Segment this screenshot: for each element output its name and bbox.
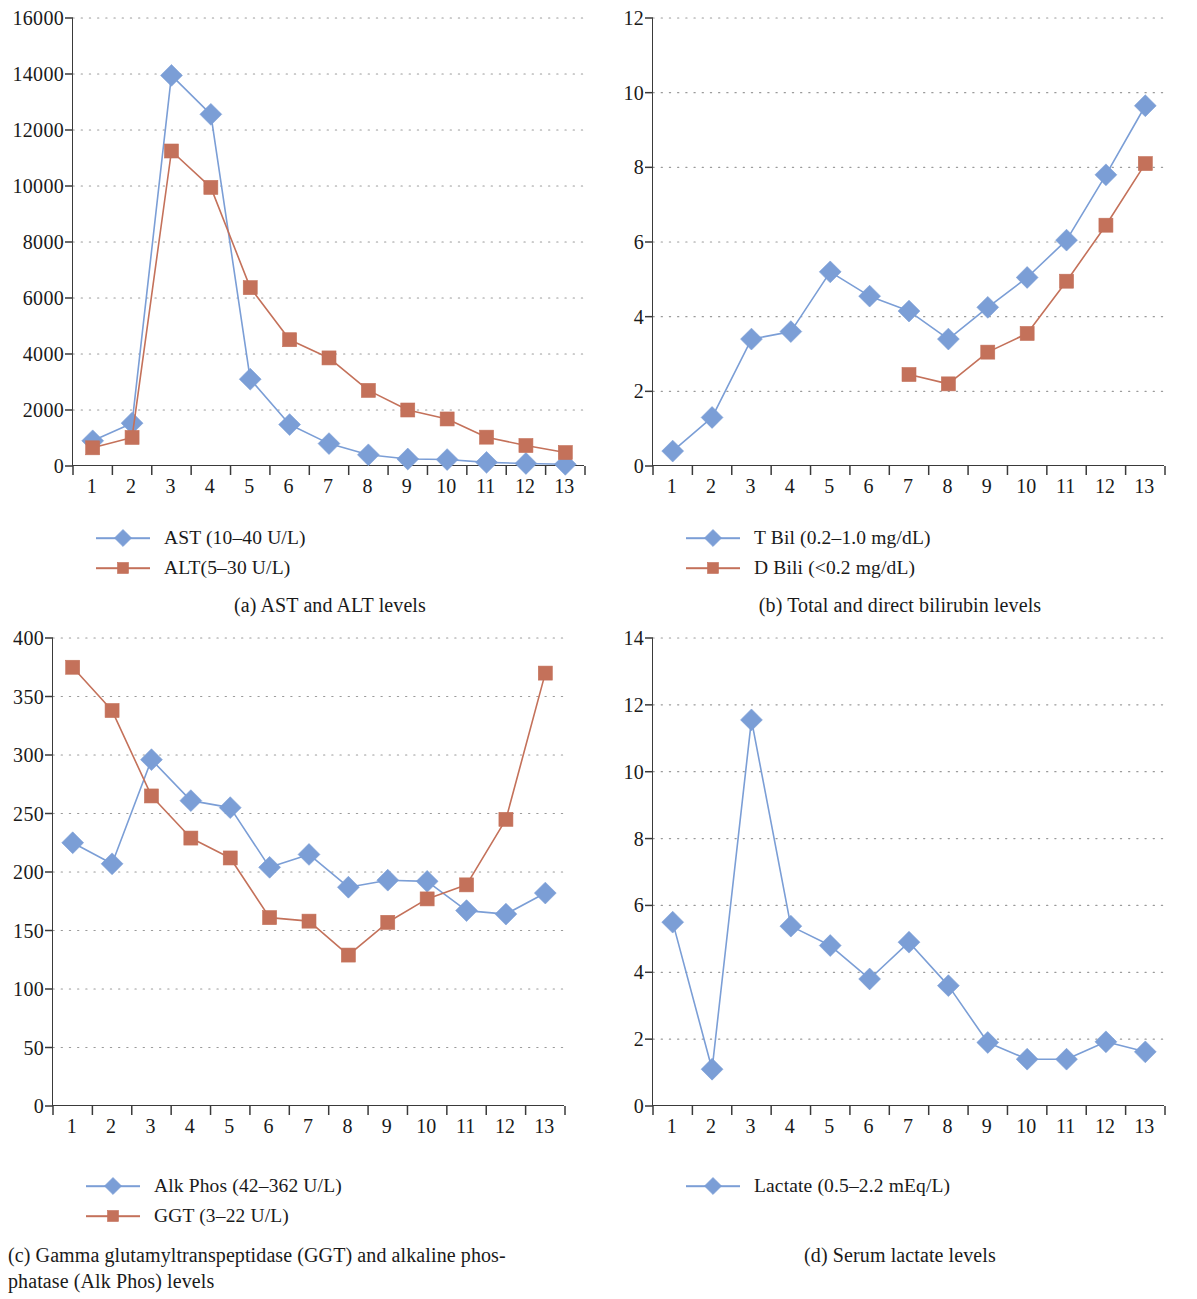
data-point-marker <box>977 296 999 318</box>
data-point-marker <box>662 911 684 933</box>
x-tick-label: 8 <box>942 1116 952 1136</box>
y-tick-label: 14000 <box>13 64 65 84</box>
data-point-marker <box>204 180 218 194</box>
data-point-marker <box>298 844 320 866</box>
y-tick-label: 8 <box>634 829 644 849</box>
data-point-marker <box>259 856 281 878</box>
chart-svg-c <box>53 638 353 788</box>
y-tick-label: 6000 <box>23 288 64 308</box>
x-tick-label: 6 <box>864 476 874 496</box>
legend-diamond-marker-icon <box>86 1178 140 1194</box>
x-tick-label: 7 <box>903 476 913 496</box>
data-point-marker <box>558 446 572 460</box>
data-point-marker <box>495 903 517 925</box>
data-point-marker <box>436 449 458 471</box>
x-tick-label: 12 <box>1095 476 1115 496</box>
x-tick-label: 3 <box>165 476 175 496</box>
caption-c-line2: phatase (Alk Phos) levels <box>8 1270 214 1292</box>
legend-label: AST (10–40 U/L) <box>164 528 306 548</box>
y-tick-label: 150 <box>13 921 44 941</box>
chart-svg-b <box>653 18 953 168</box>
y-tick-label: 10000 <box>13 176 65 196</box>
x-tick-label: 6 <box>264 1116 274 1136</box>
data-point-marker <box>401 403 415 417</box>
data-point-marker <box>937 328 959 350</box>
legend-row: T Bil (0.2–1.0 mg/dL) <box>686 523 931 553</box>
data-point-marker <box>515 453 537 475</box>
y-tick-label: 8000 <box>23 232 64 252</box>
data-point-marker <box>164 144 178 158</box>
panel-b: 024681012 12345678910111213 T Bil (0.2–1… <box>600 0 1197 620</box>
x-tick-label: 2 <box>706 1116 716 1136</box>
x-tick-label: 10 <box>1016 476 1036 496</box>
x-tick-label: 10 <box>416 1116 436 1136</box>
data-point-marker <box>66 660 80 674</box>
y-tick-label: 2 <box>634 1029 644 1049</box>
data-point-marker <box>538 666 552 680</box>
data-point-marker <box>819 261 841 283</box>
legend-row: ALT(5–30 U/L) <box>96 553 306 583</box>
data-point-marker <box>662 440 684 462</box>
legend-label: Lactate (0.5–2.2 mEq/L) <box>754 1176 950 1196</box>
x-tick-label: 9 <box>382 1116 392 1136</box>
plot-area-b <box>652 18 1164 466</box>
x-tick-label: 3 <box>745 476 755 496</box>
y-axis-ticks-d: 02468101214 <box>600 638 644 1106</box>
data-point-marker <box>902 368 916 382</box>
legend-square-marker-icon <box>96 560 150 576</box>
data-point-marker <box>741 709 763 731</box>
data-point-marker <box>898 300 920 322</box>
data-point-marker <box>86 441 100 455</box>
x-tick-label: 3 <box>745 1116 755 1136</box>
data-point-marker <box>219 797 241 819</box>
x-tick-label: 4 <box>785 476 795 496</box>
data-point-marker <box>859 285 881 307</box>
data-point-marker <box>1016 1048 1038 1070</box>
y-tick-label: 12 <box>623 8 644 28</box>
data-point-marker <box>741 328 763 350</box>
x-tick-label: 8 <box>362 476 372 496</box>
data-point-marker <box>1020 326 1034 340</box>
data-point-marker <box>1134 95 1156 117</box>
data-point-marker <box>456 900 478 922</box>
data-point-marker <box>357 444 379 466</box>
x-tick-label: 4 <box>205 476 215 496</box>
x-tick-label: 6 <box>284 476 294 496</box>
x-tick-label: 11 <box>1056 476 1075 496</box>
y-tick-label: 10 <box>623 83 644 103</box>
y-tick-label: 10 <box>623 762 644 782</box>
y-tick-label: 0 <box>634 1096 644 1116</box>
data-point-marker <box>318 433 340 455</box>
x-tick-label: 13 <box>534 1116 554 1136</box>
panel-d: 02468101214 12345678910111213 Lactate (0… <box>600 620 1197 1299</box>
x-tick-label: 8 <box>342 1116 352 1136</box>
x-tick-label: 13 <box>1134 1116 1154 1136</box>
y-tick-label: 2000 <box>23 400 64 420</box>
data-point-marker <box>223 851 237 865</box>
x-tick-label: 5 <box>824 1116 834 1136</box>
y-tick-label: 0 <box>54 456 64 476</box>
data-point-marker <box>499 812 513 826</box>
plot-area-c <box>52 638 564 1106</box>
x-tick-label: 1 <box>87 476 97 496</box>
legend-square-marker-icon <box>686 560 740 576</box>
data-point-marker <box>977 1032 999 1054</box>
x-tick-label: 4 <box>785 1116 795 1136</box>
data-point-marker <box>1134 1041 1156 1063</box>
data-point-marker <box>460 878 474 892</box>
data-point-marker <box>263 911 277 925</box>
y-tick-label: 0 <box>634 456 644 476</box>
legend-label: Alk Phos (42–362 U/L) <box>154 1176 342 1196</box>
y-axis-ticks-a: 0200040006000800010000120001400016000 <box>0 18 64 466</box>
data-point-marker <box>981 345 995 359</box>
x-tick-label: 10 <box>436 476 456 496</box>
legend-d: Lactate (0.5–2.2 mEq/L) <box>686 1171 950 1201</box>
y-tick-label: 4 <box>634 307 644 327</box>
y-tick-label: 6 <box>634 895 644 915</box>
legend-label: GGT (3–22 U/L) <box>154 1206 289 1226</box>
x-tick-label: 7 <box>303 1116 313 1136</box>
x-tick-label: 13 <box>1134 476 1154 496</box>
data-point-marker <box>780 915 802 937</box>
data-point-marker <box>397 448 419 470</box>
x-tick-label: 5 <box>224 1116 234 1136</box>
